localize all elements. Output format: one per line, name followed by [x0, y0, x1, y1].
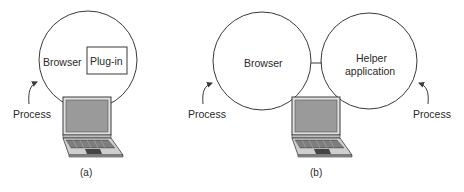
process-label-left: Process [188, 108, 226, 120]
browser-label: Browser [43, 56, 82, 68]
process-label-right: Process [413, 108, 451, 120]
process-arrow [29, 82, 37, 104]
panel-b: Browser Helper application Process Proce… [188, 12, 451, 178]
process-arrow-right [419, 83, 428, 104]
laptop-icon [292, 97, 352, 157]
panel-a: Browser Plug-in Process (a) [13, 11, 137, 178]
helper-label-line2: application [345, 65, 395, 77]
browser-label: Browser [244, 57, 283, 69]
diagram-canvas: Browser Plug-in Process (a) Browser Help… [0, 0, 464, 192]
helper-label-line1: Helper [356, 52, 387, 64]
laptop-icon [63, 97, 123, 157]
caption-a: (a) [80, 167, 92, 178]
caption-b: (b) [310, 167, 322, 178]
plugin-label: Plug-in [90, 55, 123, 67]
process-label: Process [13, 108, 51, 120]
process-arrow-left [203, 83, 212, 104]
